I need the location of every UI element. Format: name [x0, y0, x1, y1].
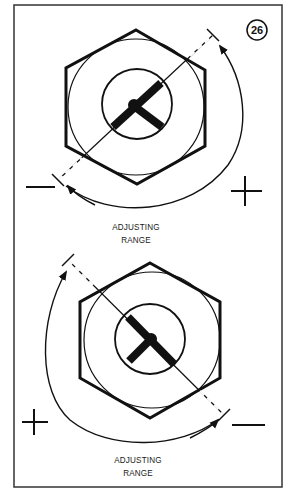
- upper-range-label-line1: ADJUSTING: [100, 221, 172, 233]
- diagram-canvas: [0, 0, 293, 502]
- upper-adjuster-diagram: [26, 29, 262, 208]
- figure-number: 26: [246, 19, 268, 41]
- adjusting-range-figure: 26 ADJUSTING RANGE ADJUSTING RANGE: [0, 0, 293, 502]
- plus-sign: [231, 176, 262, 206]
- lower-range-label-line2: RANGE: [102, 467, 174, 479]
- figure-frame: [14, 5, 282, 487]
- lower-adjuster-diagram: [22, 254, 265, 443]
- adjusting-range-arc: [66, 46, 243, 208]
- plus-sign: [22, 409, 48, 435]
- upper-range-label-line2: RANGE: [100, 234, 172, 246]
- lower-range-label-line1: ADJUSTING: [102, 454, 174, 466]
